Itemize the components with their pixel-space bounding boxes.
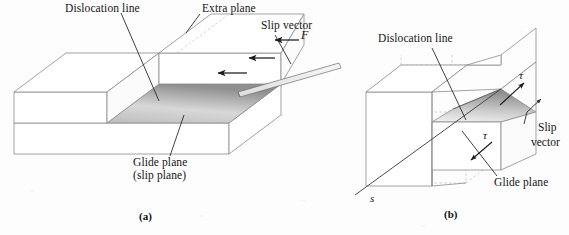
panel-a-label-glide-plane: Glide plane (133, 156, 187, 169)
panel-b-label-line-vector-s: s (370, 192, 374, 205)
panel-b-label-tau-upper: τ (519, 69, 523, 81)
panel-a-label-force: F (301, 29, 308, 42)
panel-a-block (14, 13, 341, 156)
panel-b-label-dislocation-line: Dislocation line (378, 32, 453, 45)
panel-b-label-glide-plane: Glide plane (494, 176, 548, 189)
panel-a-label-slip-plane: (slip plane) (133, 169, 186, 182)
panel-b-label-tau-lower: τ (483, 129, 487, 141)
panel-a-label-dislocation-line: Dislocation line (65, 2, 140, 15)
panel-a-id: (a) (139, 210, 152, 222)
panel-b-label-slip: Slip (538, 121, 557, 134)
panel-b-block (355, 28, 541, 195)
panel-b-id: (b) (444, 208, 457, 220)
panel-a-label-extra-plane: Extra plane (202, 2, 256, 15)
dislocation-figure (0, 0, 569, 235)
panel-b-label-vector: vector (531, 136, 560, 149)
